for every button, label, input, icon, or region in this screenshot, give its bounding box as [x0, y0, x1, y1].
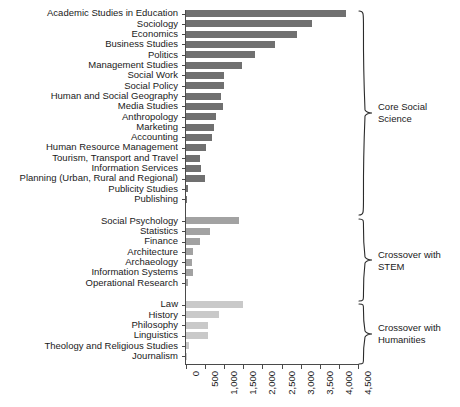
x-axis-tick — [186, 365, 187, 369]
x-axis-tick-label: 2,000 — [266, 371, 277, 395]
x-axis-tick-label: 1,000 — [228, 371, 239, 395]
x-axis-tick-label: 0 — [190, 371, 201, 376]
group-label-crossover-with-humanities: Crossover with Humanities — [378, 322, 441, 345]
x-axis-ticks: 05001,0001,5002,0002,5003,0003,5004,0004… — [0, 0, 460, 407]
x-axis-tick-label: 500 — [209, 371, 220, 387]
x-axis-tick-label: 3,500 — [324, 371, 335, 395]
x-axis-tick — [282, 365, 283, 369]
x-axis-tick — [205, 365, 206, 369]
x-axis-tick — [301, 365, 302, 369]
x-axis-tick-label: 4,000 — [343, 371, 354, 395]
x-axis-tick — [262, 365, 263, 369]
x-axis-tick-label: 2,500 — [286, 371, 297, 395]
x-axis-tick — [243, 365, 244, 369]
x-axis-tick — [339, 365, 340, 369]
x-axis-tick — [358, 365, 359, 369]
group-label-crossover-with-stem: Crossover with STEM — [378, 249, 441, 272]
group-label-core-social-science: Core Social Science — [378, 101, 427, 124]
bracket-crossover-with-humanities — [358, 303, 374, 365]
bracket-core-social-science — [358, 10, 374, 216]
x-axis-tick-label: 1,500 — [247, 371, 258, 395]
x-axis-tick — [224, 365, 225, 369]
x-axis-tick-label: 4,500 — [362, 371, 373, 395]
x-axis-tick-label: 3,000 — [305, 371, 316, 395]
bar-chart: Academic Studies in EducationSociologyEc… — [0, 0, 460, 407]
bracket-crossover-with-stem — [358, 218, 374, 302]
x-axis-tick — [320, 365, 321, 369]
